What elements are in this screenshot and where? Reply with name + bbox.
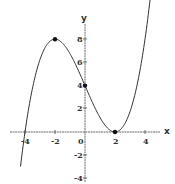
marked-point — [113, 130, 117, 134]
y-tick-label: 4 — [77, 80, 83, 90]
function-graph: -4 -2 0 2 4 8 6 4 2 -2 -4 y x — [0, 0, 175, 184]
y-tick-label: 8 — [77, 34, 83, 44]
x-tick-label: -2 — [51, 136, 60, 146]
y-tick-label: 6 — [77, 57, 83, 67]
x-axis-label: x — [164, 126, 170, 136]
y-tick-label: -4 — [74, 173, 83, 183]
y-tick-label: -2 — [74, 150, 83, 160]
y-tick-label: 2 — [77, 103, 83, 113]
marked-point — [83, 83, 87, 87]
x-tick-label: 0 — [78, 136, 84, 146]
marked-point — [53, 37, 57, 41]
x-tick-label: 4 — [143, 136, 149, 146]
y-axis-label: y — [81, 13, 87, 23]
x-tick-label: 2 — [113, 136, 119, 146]
x-tick-label: -4 — [21, 136, 30, 146]
